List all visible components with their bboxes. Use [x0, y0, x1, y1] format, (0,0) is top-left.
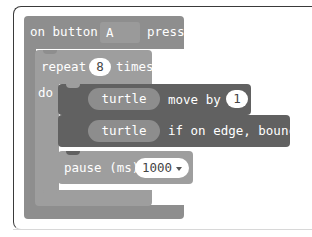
event-prefix-label: on button [30, 24, 98, 40]
move-action-label: move by [168, 92, 221, 108]
move-value-input[interactable]: 1 [226, 90, 248, 108]
repeat-count-input[interactable]: 8 [89, 58, 111, 76]
block-notch [66, 151, 80, 155]
block-notch [43, 190, 57, 194]
sprite-move-block[interactable]: turtle move by 1 [58, 84, 251, 115]
pause-value: 1000 [142, 160, 172, 175]
sprite-variable[interactable]: turtle [88, 120, 160, 142]
pause-label: pause (ms) [64, 160, 139, 176]
bounce-action-label: if on edge, bounce [168, 123, 303, 139]
repeat-block-foot [35, 190, 152, 206]
repeat-suffix-label: times [116, 59, 154, 75]
workspace-frame-bottom-edge [13, 229, 312, 230]
sprite-bounce-block[interactable]: turtle if on edge, bounce [58, 115, 290, 147]
repeat-label: repeat [41, 59, 86, 75]
event-block-foot [24, 205, 184, 219]
event-suffix-label: pressed [147, 24, 200, 40]
do-label: do [38, 85, 53, 101]
pause-block[interactable]: pause (ms) 1000 [58, 151, 193, 184]
pause-duration-dropdown[interactable]: 1000 [135, 158, 189, 178]
block-notch [43, 50, 57, 54]
sprite-variable[interactable]: turtle [88, 88, 160, 110]
repeat-block[interactable]: repeat 8 times [35, 50, 152, 84]
block-notch [66, 84, 80, 88]
on-button-pressed-block[interactable]: on button A pressed [24, 16, 184, 49]
button-dropdown[interactable]: A [100, 22, 140, 43]
caret-down-icon [176, 167, 182, 171]
repeat-block-side: do [35, 83, 59, 193]
